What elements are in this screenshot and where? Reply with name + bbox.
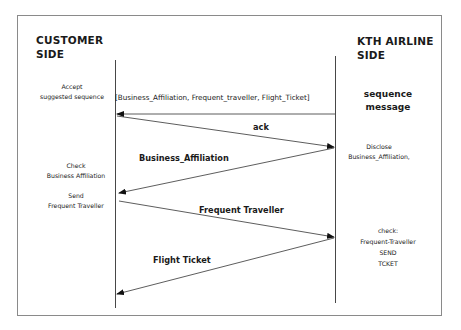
- note-sequence-message: sequence message: [348, 88, 428, 114]
- customer-header-line1: CUSTOMER: [36, 33, 103, 47]
- note-line: SEND: [348, 247, 428, 258]
- airline-side-header: KTH AIRLINE SIDE: [357, 34, 434, 62]
- note-line: Check: [38, 161, 114, 171]
- note-line: Business_Affiliation,: [337, 152, 421, 162]
- note-line: TCKET: [348, 258, 428, 269]
- note-line: Frequent Traveller: [38, 201, 114, 211]
- message-label-frequent-traveller: Frequent Traveller: [199, 205, 284, 215]
- customer-side-header: CUSTOMER SIDE: [36, 33, 103, 61]
- message-label-sequence: [Business_Affiliation, Frequent_travelle…: [115, 93, 310, 102]
- note-send-frequent-traveller: Send Frequent Traveller: [38, 191, 114, 211]
- note-line: Frequent-Traveller: [348, 236, 428, 247]
- arrow-ack: [117, 116, 334, 147]
- note-line: Accept: [30, 82, 114, 92]
- airline-header-line2: SIDE: [357, 48, 434, 62]
- note-disclose-business-affiliation: Disclose Business_Affiliation,: [337, 142, 421, 162]
- note-line: suggested sequence: [30, 92, 114, 102]
- note-line: message: [348, 101, 428, 114]
- note-line: Disclose: [337, 142, 421, 152]
- message-label-business-affiliation: Business_Affiliation: [139, 153, 229, 163]
- arrow-flight-ticket: [117, 238, 334, 294]
- note-accept-sequence: Accept suggested sequence: [30, 82, 114, 102]
- message-label-flight-ticket: Flight Ticket: [153, 255, 211, 265]
- note-line: Business Affiliation: [38, 171, 114, 181]
- note-check-business-affiliation: Check Business Affiliation: [38, 161, 114, 181]
- note-line: Send: [38, 191, 114, 201]
- customer-header-line2: SIDE: [36, 47, 103, 61]
- note-line: check:: [348, 225, 428, 236]
- airline-header-line1: KTH AIRLINE: [357, 34, 434, 48]
- note-line: sequence: [348, 88, 428, 101]
- note-check-frequent-traveller: check: Frequent-Traveller SEND TCKET: [348, 225, 428, 269]
- message-label-ack: ack: [253, 122, 269, 132]
